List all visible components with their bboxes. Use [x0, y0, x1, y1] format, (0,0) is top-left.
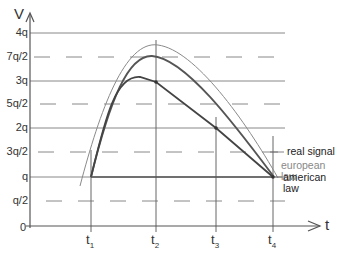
time-markers: [91, 40, 273, 232]
x-tick-t1: t1: [86, 233, 94, 250]
y-tick-5q2: 5q/2: [0, 98, 28, 109]
y-tick-q2: q/2: [0, 195, 28, 206]
legend-american-law: american law: [283, 172, 344, 193]
y-tick-7q2: 7q/2: [0, 51, 28, 62]
y-tick-3q: 3q: [0, 75, 28, 86]
x-tick-t4: t4: [268, 233, 276, 250]
european-law-curve: [91, 56, 274, 177]
x-axis-label: t: [325, 217, 329, 232]
legend-real-signal: real signal: [287, 146, 335, 157]
y-tick-4q: 4q: [0, 27, 28, 38]
axes: [26, 13, 320, 231]
y-tick-3q2: 3q/2: [0, 146, 28, 157]
real-signal-curve: [80, 45, 278, 186]
x-tick-t2: t2: [151, 233, 159, 250]
signal-diagram: V t 4q 7q/2 3q 5q/2 2q 3q/2 q q/2 0 t1 t…: [0, 0, 344, 253]
y-tick-0: 0: [0, 222, 26, 233]
y-tick-q: q: [0, 171, 28, 182]
y-axis-label: V: [14, 6, 24, 21]
x-tick-t3: t3: [211, 233, 219, 250]
diagram-canvas: [0, 0, 344, 253]
y-tick-2q: 2q: [0, 122, 28, 133]
